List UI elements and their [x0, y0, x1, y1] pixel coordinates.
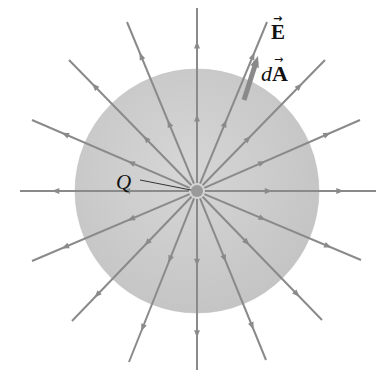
charge-label: Q	[116, 172, 131, 193]
arrowhead-icon	[62, 243, 70, 249]
arrowhead-icon	[249, 52, 255, 60]
vector-arrow-icon: →	[273, 13, 282, 24]
differential-symbol: d	[261, 61, 272, 86]
diagram-canvas	[0, 0, 387, 382]
vector-arrow-icon: →	[274, 54, 283, 65]
arrowhead-icon	[194, 330, 200, 337]
arrowhead-icon	[323, 133, 331, 139]
arrowhead-icon	[336, 188, 343, 194]
arrowhead-icon	[141, 323, 146, 331]
gauss-law-diagram: E → dA → Q	[0, 0, 387, 382]
arrowhead-icon	[140, 52, 146, 60]
arrowhead-icon	[194, 41, 200, 48]
area-vector-label: dA →	[261, 63, 288, 85]
field-vector-label: E →	[271, 22, 285, 43]
arrowhead-icon	[248, 322, 254, 330]
arrowhead-icon	[52, 188, 59, 194]
arrowhead-icon	[323, 242, 331, 248]
arrowhead-icon	[62, 133, 70, 139]
point-charge	[191, 185, 203, 197]
